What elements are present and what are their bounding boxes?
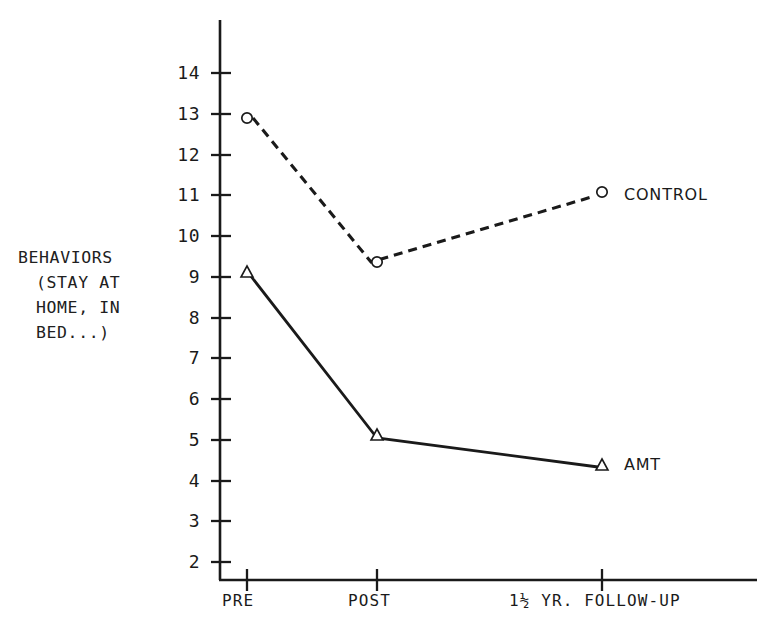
y-tick-label-3: 3	[160, 512, 200, 530]
series-control-line	[253, 118, 595, 262]
y-tick-label-11: 11	[160, 186, 200, 204]
series-control-point-followup	[597, 187, 607, 197]
series-label-control: CONTROL	[624, 186, 708, 204]
y-tick-label-9: 9	[160, 268, 200, 286]
chart-figure: BEHAVIORS (STAY AT HOME, IN BED...)	[0, 0, 784, 630]
y-tick-label-12: 12	[160, 146, 200, 164]
series-amt	[241, 266, 608, 470]
y-tick-label-6: 6	[160, 390, 200, 408]
y-tick-label-8: 8	[160, 309, 200, 327]
series-control	[242, 113, 607, 267]
x-tick-label-followup: 1½ YR. FOLLOW-UP	[509, 592, 681, 610]
y-tick-label-4: 4	[160, 472, 200, 490]
y-tick-label-10: 10	[160, 227, 200, 245]
y-tick-label-13: 13	[160, 105, 200, 123]
y-tick-label-5: 5	[160, 431, 200, 449]
y-tick-label-2: 2	[160, 553, 200, 571]
series-control-point-post	[372, 257, 382, 267]
series-amt-line	[250, 275, 598, 467]
series-label-amt: AMT	[624, 456, 661, 474]
series-amt-point-pre	[241, 266, 253, 277]
chart-canvas	[0, 0, 784, 630]
y-tick-label-7: 7	[160, 349, 200, 367]
series-amt-point-followup	[596, 459, 608, 470]
x-tick-label-post: POST	[348, 592, 391, 610]
series-control-point-pre	[242, 113, 252, 123]
y-tick-label-14: 14	[160, 64, 200, 82]
x-tick-label-pre: PRE	[222, 592, 254, 610]
